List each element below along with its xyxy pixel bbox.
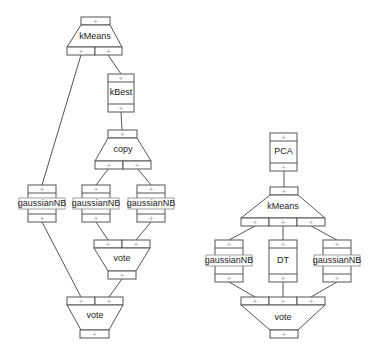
- port-plus-icon: +: [93, 214, 98, 221]
- port-plus-icon: +: [280, 274, 285, 281]
- port-plus-icon: +: [93, 17, 98, 24]
- port-plus-icon: +: [39, 185, 44, 192]
- port-plus-icon: +: [120, 130, 125, 137]
- node-kbest[interactable]: + kBest +: [108, 74, 134, 112]
- node-gaussiannb-b[interactable]: + gaussianNB +: [313, 240, 362, 282]
- port-plus-icon: +: [252, 218, 257, 225]
- port-plus-icon: +: [93, 185, 98, 192]
- port-plus-icon: +: [334, 240, 339, 247]
- node-vote-right[interactable]: + + + vote +: [241, 297, 325, 338]
- edge-gnb-b-to-vote: [311, 282, 337, 297]
- node-gaussiannb-a[interactable]: + gaussianNB +: [205, 240, 254, 282]
- port-plus-icon: +: [226, 274, 231, 281]
- node-label: PCA: [274, 146, 293, 156]
- node-label: gaussianNB: [18, 198, 67, 208]
- node-label: kBest: [110, 87, 133, 97]
- node-copy[interactable]: + copy + +: [95, 130, 151, 169]
- port-plus-icon: +: [280, 297, 285, 304]
- port-plus-icon: +: [78, 47, 83, 54]
- port-plus-icon: +: [148, 185, 153, 192]
- edge-copy-to-gnb-right: [137, 168, 151, 185]
- port-plus-icon: +: [119, 271, 124, 278]
- node-gaussiannb-left[interactable]: + gaussianNB +: [18, 185, 67, 222]
- port-plus-icon: +: [252, 297, 257, 304]
- port-plus-icon: +: [39, 214, 44, 221]
- pipeline-diagram: + kMeans + + + kBest + + copy + + + gaus…: [0, 0, 378, 356]
- node-gaussiannb-right[interactable]: + gaussianNB +: [127, 185, 176, 222]
- port-plus-icon: +: [118, 74, 123, 81]
- port-plus-icon: +: [148, 214, 153, 221]
- port-plus-icon: +: [133, 240, 138, 247]
- port-plus-icon: +: [106, 161, 111, 168]
- node-vote-inner[interactable]: + + vote +: [94, 240, 150, 279]
- port-plus-icon: +: [118, 104, 123, 111]
- port-plus-icon: +: [106, 47, 111, 54]
- edge-kmeans-to-gnb-b: [311, 226, 337, 240]
- node-gaussiannb-mid[interactable]: + gaussianNB +: [72, 185, 121, 222]
- port-plus-icon: +: [105, 240, 110, 247]
- node-label: vote: [274, 312, 291, 322]
- node-label: kMeans: [267, 201, 299, 211]
- edge-kmeans-to-kbest: [108, 55, 121, 74]
- node-vote-outer[interactable]: + + vote +: [67, 297, 123, 338]
- port-plus-icon: +: [226, 240, 231, 247]
- edge-kbest-to-copy: [121, 112, 122, 130]
- port-plus-icon: +: [134, 161, 139, 168]
- edge-copy-to-gnb-mid: [96, 168, 109, 185]
- node-label: gaussianNB: [72, 198, 121, 208]
- node-kmeans-right[interactable]: + kMeans + + +: [241, 187, 325, 226]
- port-plus-icon: +: [78, 297, 83, 304]
- port-plus-icon: +: [280, 240, 285, 247]
- port-plus-icon: +: [281, 330, 286, 337]
- edge-kmeans-to-gnb-a: [229, 226, 255, 240]
- node-label: vote: [86, 310, 103, 320]
- port-plus-icon: +: [281, 187, 286, 194]
- edge-gnb-a-to-vote: [229, 282, 255, 297]
- edge-vote-to-vote-outer: [109, 279, 122, 297]
- node-label: kMeans: [79, 31, 111, 41]
- node-label: copy: [113, 144, 133, 154]
- edge-gnb-right-to-vote: [136, 222, 151, 240]
- port-plus-icon: +: [281, 133, 286, 140]
- port-plus-icon: +: [106, 297, 111, 304]
- port-plus-icon: +: [92, 330, 97, 337]
- edge-gnb-left-to-vote-outer: [42, 222, 81, 297]
- port-plus-icon: +: [280, 218, 285, 225]
- node-label: DT: [277, 255, 289, 265]
- node-label: gaussianNB: [205, 255, 254, 265]
- node-label: vote: [113, 253, 130, 263]
- port-plus-icon: +: [334, 274, 339, 281]
- node-label: gaussianNB: [127, 198, 176, 208]
- node-pca[interactable]: + PCA +: [270, 133, 297, 171]
- port-plus-icon: +: [308, 218, 313, 225]
- node-kmeans-left[interactable]: + kMeans + +: [67, 17, 122, 55]
- edge-gnb-mid-to-vote: [96, 222, 108, 240]
- node-dt[interactable]: + DT +: [269, 240, 297, 282]
- port-plus-icon: +: [308, 297, 313, 304]
- node-label: gaussianNB: [313, 255, 362, 265]
- port-plus-icon: +: [281, 163, 286, 170]
- edge-kmeans-to-gnb-left: [42, 55, 81, 185]
